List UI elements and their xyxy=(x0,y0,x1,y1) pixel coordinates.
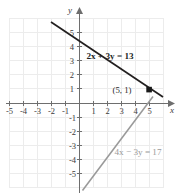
x-tick-label-3: 3 xyxy=(119,106,123,116)
coordinate-graph-figure: -5 -4 -3 -2 -1 1 2 3 4 5 5 4 3 2 1 -1 -2… xyxy=(0,0,181,196)
y-tick-label-neg4: -4 xyxy=(69,155,77,165)
y-tick-label-neg1: -1 xyxy=(69,113,76,123)
x-tick-label-neg3: -3 xyxy=(34,106,41,116)
x-tick-label-neg2: -2 xyxy=(48,106,55,116)
y-tick-label-3: 3 xyxy=(70,56,74,66)
x-tick-label-4: 4 xyxy=(133,106,138,116)
y-axis-label: y xyxy=(67,5,72,15)
y-tick-label-neg5: -5 xyxy=(69,169,76,179)
x-tick-label-2: 2 xyxy=(105,106,109,116)
y-axis xyxy=(76,7,83,193)
intersection-point-marker xyxy=(146,87,152,93)
y-tick-label-neg2: -2 xyxy=(69,127,76,137)
equation-label-secondary: 4x − 3y = 17 xyxy=(114,147,162,157)
equation-label-primary: 2x + 3y = 13 xyxy=(86,51,134,61)
x-tick-label-neg4: -4 xyxy=(20,106,28,116)
y-tick-label-neg3: -3 xyxy=(69,141,76,151)
y-tick-label-1: 1 xyxy=(70,84,74,94)
x-axis-tick-labels: -5 -4 -3 -2 -1 1 2 3 4 5 xyxy=(6,106,152,116)
x-axis-label: x xyxy=(169,105,174,115)
grid-lines-vertical xyxy=(10,18,164,187)
x-tick-label-1: 1 xyxy=(91,106,95,116)
x-tick-label-neg5: -5 xyxy=(6,106,13,116)
intersection-point-label: (5, 1) xyxy=(112,85,131,95)
y-tick-label-2: 2 xyxy=(70,70,74,80)
x-tick-label-5: 5 xyxy=(147,106,151,116)
graph-canvas: -5 -4 -3 -2 -1 1 2 3 4 5 5 4 3 2 1 -1 -2… xyxy=(0,0,181,196)
